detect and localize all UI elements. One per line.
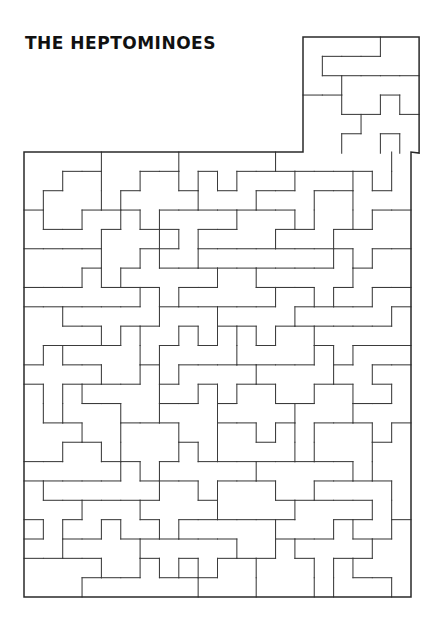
tile-layer [24,37,419,597]
page-title: THE HEPTOMINOES [25,33,216,53]
puzzle-svg [0,0,434,634]
heptomino-puzzle-figure [0,0,434,634]
